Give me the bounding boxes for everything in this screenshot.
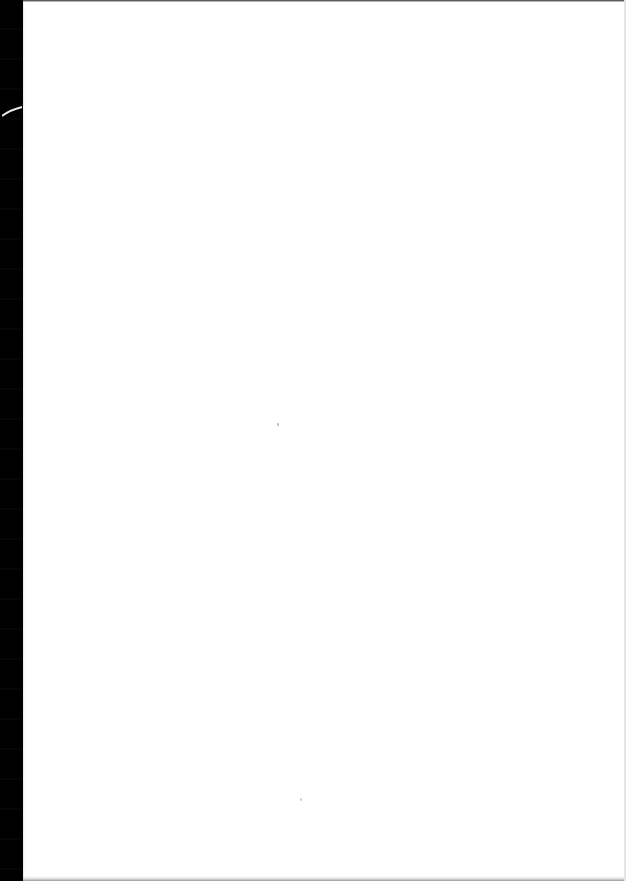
page-top-edge bbox=[23, 0, 626, 2]
dust-speck bbox=[277, 423, 279, 426]
dust-speck bbox=[300, 798, 302, 801]
blank-page bbox=[23, 1, 626, 880]
scanner-left-margin bbox=[0, 0, 22, 881]
paper-tear-mark bbox=[2, 104, 24, 118]
